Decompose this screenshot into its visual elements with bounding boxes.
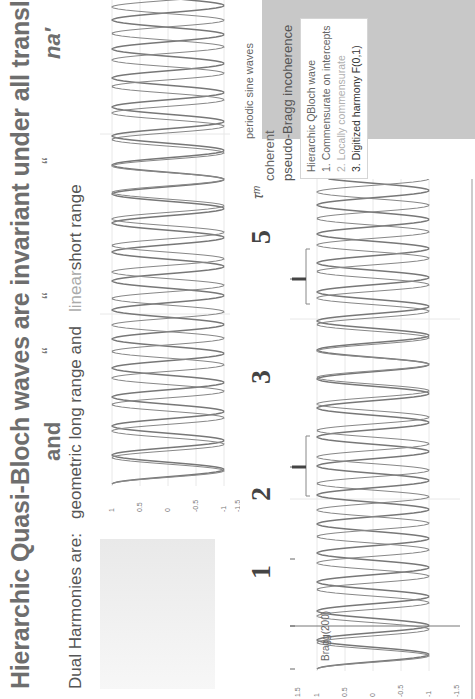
slide: Hierarchic Quasi-Bloch waves are invaria… — [0, 0, 475, 699]
legend-box: Hierarchic QBloch wave 1. Commensurate o… — [300, 18, 368, 179]
page-title: Hierarchic Quasi-Bloch waves are invaria… — [6, 0, 35, 689]
label-pseudo-bragg: pseudo-Bragg incoherence — [280, 25, 295, 181]
svg-text:-1.5: -1.5 — [453, 685, 460, 697]
label-tau-m: τᵐ — [250, 187, 266, 199]
legend-item-1: 1. Commensurate on intercepts — [319, 25, 334, 172]
svg-text:-0.5: -0.5 — [192, 500, 199, 512]
svg-text:0.5: 0.5 — [341, 687, 348, 697]
svg-text:0: 0 — [369, 693, 376, 697]
gray-panel — [100, 539, 215, 689]
svg-text:-1.5: -1.5 — [234, 500, 240, 512]
subtitle: Dual Harmonies are: geometric long range… — [66, 184, 86, 689]
svg-text:1: 1 — [313, 693, 320, 697]
marker-3: 3 — [245, 370, 277, 384]
legend-item-1-num: 1. — [320, 163, 332, 172]
svg-text:-1: -1 — [425, 691, 432, 697]
svg-text:1.5: 1.5 — [294, 687, 301, 697]
svg-text:0: 0 — [164, 508, 171, 512]
subtitle-short-range: short range — [66, 184, 85, 270]
legend-item-3-num: 3. — [350, 163, 362, 172]
legend-title: Hierarchic QBloch wave — [304, 25, 319, 172]
svg-text:0.5: 0.5 — [136, 502, 143, 512]
label-bragg-200: Bragg(200) — [320, 611, 331, 661]
quote-mark-3: “ — [38, 157, 61, 164]
svg-text:1: 1 — [108, 508, 115, 512]
legend-item-3-label: Digitized harmony F(0,1) — [350, 45, 362, 160]
title-math-na: na′ — [40, 28, 66, 59]
quote-mark-2: “ — [38, 292, 61, 299]
quote-mark-1: “ — [38, 347, 61, 354]
svg-text:-1: -1 — [220, 506, 227, 512]
legend-item-1-label: Commensurate on intercepts — [320, 25, 332, 160]
title-and: and — [40, 422, 66, 461]
legend-item-3: 3. Digitized harmony F(0,1) — [349, 25, 364, 172]
marker-5: 5 — [245, 230, 277, 244]
top-chart: 1 0.5 0 -0.5 -1 -1.5 — [100, 0, 240, 514]
label-coherent: coherent — [262, 130, 277, 181]
title-text: Hierarchic Quasi-Bloch waves are invaria… — [6, 0, 34, 689]
subtitle-linear: linear — [66, 270, 85, 312]
bottom-chart-svg: 1.5 1 0.5 0 -0.5 -1 -1.5 — [290, 179, 475, 699]
legend-item-2-num: 2. — [335, 163, 347, 172]
subtitle-geometric: geometric — [66, 444, 85, 519]
subtitle-long-range: long range and — [66, 326, 85, 439]
top-chart-svg: 1 0.5 0 -0.5 -1 -1.5 — [100, 0, 240, 514]
marker-2: 2 — [245, 487, 277, 501]
legend-item-2-label: Locally commensurate — [335, 55, 347, 160]
marker-1: 1 — [245, 565, 277, 579]
subtitle-prefix: Dual Harmonies are: — [66, 533, 85, 689]
svg-text:-0.5: -0.5 — [397, 685, 404, 697]
legend-item-2: 2. Locally commensurate — [334, 25, 349, 172]
label-periodic-sine-waves: periodic sine waves — [243, 43, 255, 139]
bottom-chart: 1.5 1 0.5 0 -0.5 -1 -1.5 B — [290, 179, 475, 699]
